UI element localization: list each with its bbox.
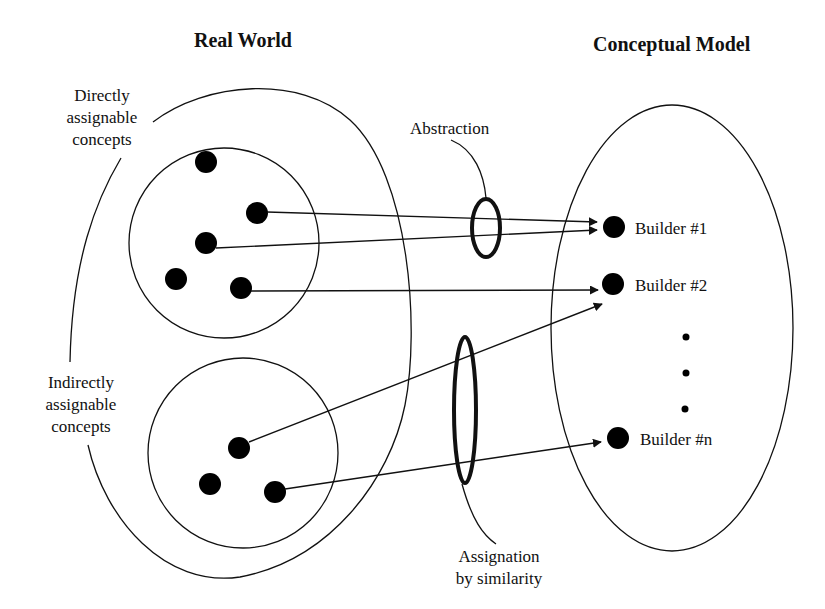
builder-2-node <box>602 273 624 295</box>
abstraction-label: Abstraction <box>410 119 490 138</box>
assignation-ring <box>454 337 476 483</box>
indirectly-label-line-3: concepts <box>51 417 110 436</box>
builder-n-node <box>607 427 629 449</box>
assignation-label-line-2: by similarity <box>456 569 543 588</box>
real-world-title: Real World <box>194 29 292 51</box>
concept-dot <box>246 202 268 224</box>
diagram: Real World Conceptual Model Builder #1 B… <box>0 0 825 609</box>
mapping-arrow <box>216 230 597 248</box>
abstraction-leader-line <box>451 140 486 198</box>
mapping-arrow <box>251 290 598 291</box>
directly-assignable-group <box>129 148 319 338</box>
directly-label-line-1: Directly <box>74 86 130 105</box>
assignation-label-line-1: Assignation <box>458 547 540 566</box>
concept-dot <box>264 481 286 503</box>
indirectly-label-line-2: assignable <box>46 395 117 414</box>
concept-dot <box>165 268 187 290</box>
abstraction-ring <box>472 199 500 257</box>
indirectly-label-line-1: Indirectly <box>48 373 115 392</box>
mapping-arrow <box>285 442 601 489</box>
directly-label-line-3: concepts <box>72 130 131 149</box>
assignation-leader-line <box>462 484 496 544</box>
ellipsis-dot <box>682 406 689 413</box>
conceptual-model-boundary <box>551 105 793 551</box>
concept-dot <box>228 437 250 459</box>
builder-1-label: Builder #1 <box>635 219 707 238</box>
concept-dot <box>195 151 217 173</box>
ellipsis-dot <box>683 334 690 341</box>
directly-label-line-2: assignable <box>67 108 138 127</box>
concept-dot <box>195 232 217 254</box>
builder-1-node <box>603 216 625 238</box>
mapping-arrow <box>249 304 602 442</box>
real-world-boundary-upper-left <box>70 158 121 362</box>
conceptual-model-title: Conceptual Model <box>593 33 751 56</box>
concept-dot <box>230 277 252 299</box>
builder-n-label: Builder #n <box>640 430 713 449</box>
builder-2-label: Builder #2 <box>635 276 707 295</box>
diagram-canvas: Real World Conceptual Model Builder #1 B… <box>0 0 825 609</box>
real-world-boundary <box>88 89 411 579</box>
ellipsis-dot <box>683 370 690 377</box>
concept-dot <box>199 473 221 495</box>
